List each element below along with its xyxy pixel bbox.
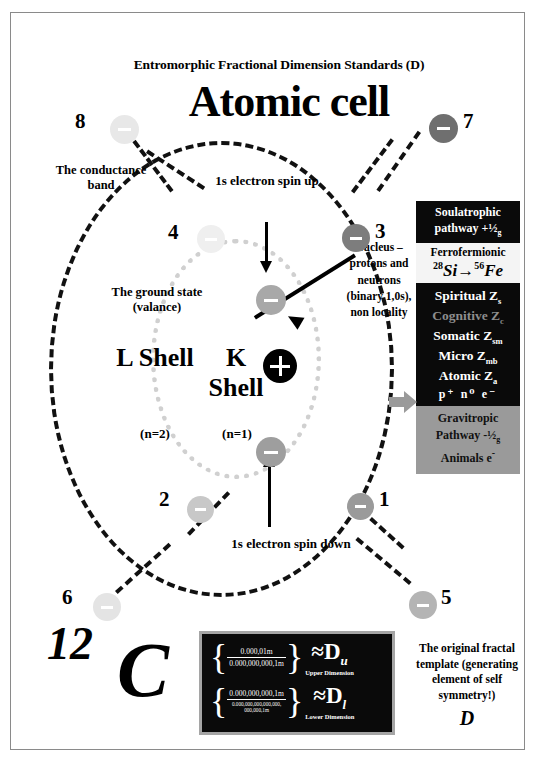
nuclear-equation: 28Si→56Fe: [419, 260, 517, 281]
spin-up-arrow-head: [260, 261, 272, 273]
electron-charge-sign: [437, 127, 450, 130]
gravitropic-line2: Pathway -½g: [419, 427, 517, 446]
z-level-micro: Micro Zmb: [418, 347, 518, 367]
electron-charge-sign: [355, 505, 367, 508]
electron-1[interactable]: [347, 493, 374, 520]
label-fractal-D: D: [403, 707, 531, 731]
label-spin-up: 1s electron spin up: [197, 170, 337, 193]
lower-dimension-row: { 0.000,000,000,1m 0.000,000,000,000,000…: [210, 683, 354, 720]
electron-2[interactable]: [187, 496, 214, 523]
spin-up-arrow-shaft: [265, 222, 268, 264]
label-conductance-band: The conductance band: [53, 163, 149, 193]
z-level-somatic: Somatic Zsm: [418, 327, 518, 347]
ferrofermionic-box: Ferrofermionic 28Si→56Fe: [416, 243, 520, 283]
nucleus-particle[interactable]: [263, 349, 297, 383]
ferrofermionic-title: Ferrofermionic: [419, 245, 517, 259]
fe-mass-number: 56: [474, 260, 484, 271]
bond-line-3: [351, 138, 394, 193]
gravitropic-pathway-box: Gravitropic Pathway -½g Animals e-: [416, 406, 520, 473]
soulatrophic-line2: pathway +½g: [419, 221, 517, 239]
gravitropic-sub: g: [496, 435, 500, 444]
lower-numerator: 0.000,000,000,1m: [227, 689, 286, 699]
electron-3[interactable]: [342, 224, 370, 252]
carbon-symbol: C: [117, 635, 169, 705]
label-l-shell: L Shell: [107, 343, 203, 373]
right-panel: Soulatrophic pathway +½g Ferrofermionic …: [416, 201, 520, 474]
lower-denominator: 0.000,000,000,000,000, 000,000,1m: [227, 699, 286, 713]
label-l-shell-n: (n=2): [107, 426, 203, 441]
lower-dimension-caption: Lower Dimension: [305, 713, 354, 720]
diagram-frame: Entromorphic Fractional Dimension Standa…: [10, 12, 525, 750]
spin-down-electron[interactable]: [256, 437, 286, 467]
fractal-template-box: { 0.000,01m 0.000,000,000,1m } ≈Du Upper…: [199, 631, 395, 735]
gravitropic-line1: Gravitropic: [419, 410, 517, 426]
label-ground-state: The ground state (valance): [97, 285, 217, 315]
electron-number-1: 1: [379, 487, 390, 512]
carbon-mass-number: 12: [47, 617, 93, 671]
electron-number-5: 5: [441, 585, 452, 610]
soulatrophic-pathway-box: Soulatrophic pathway +½g: [416, 201, 520, 243]
soulatrophic-line1: Soulatrophic: [419, 205, 517, 221]
electron-charge-sign: [101, 606, 113, 609]
z-level-cognitive: Cognitive Zc: [418, 307, 518, 327]
electron-number-7: 7: [463, 109, 474, 134]
page-title: Entromorphic Fractional Dimension Standa…: [49, 57, 509, 73]
diagram-heading: Atomic cell: [109, 76, 469, 128]
label-k-shell: K Shell: [201, 343, 271, 403]
left-brace-icon: {: [210, 686, 227, 717]
diagram-page: Entromorphic Fractional Dimension Standa…: [0, 0, 537, 764]
upper-fraction: 0.000,01m 0.000,000,000,1m: [227, 647, 286, 668]
label-fractal-template: The original fractal template (generatin…: [403, 641, 531, 703]
electron-number-3: 3: [375, 219, 386, 244]
upper-approx: ≈Du: [305, 639, 354, 669]
z-level-particles: p⁺ n⁰ e⁻: [418, 387, 518, 403]
lower-approx: ≈Dl: [305, 683, 354, 713]
electron-charge-sign: [118, 128, 131, 131]
bond-line-7: [376, 131, 421, 192]
z-level-atomic: Atomic Za: [418, 367, 518, 387]
bond-line-5: [355, 537, 411, 585]
gravitropic-line3: Animals e-: [419, 446, 517, 468]
spin-down-arrow-shaft: [268, 465, 271, 527]
label-spin-down: 1s electron spin down: [221, 533, 361, 556]
plus-sign-vertical: [279, 356, 282, 375]
electron-charge-sign: [195, 508, 207, 511]
z-level-spiritual: Spiritual Zs: [418, 287, 518, 307]
electron-4[interactable]: [197, 225, 225, 253]
electron-charge-sign: [205, 238, 217, 241]
z-levels-box: Spiritual Zs Cognitive Zc Somatic Zsm Mi…: [416, 283, 520, 406]
electron-charge-sign: [264, 451, 277, 454]
upper-dimension-caption: Upper Dimension: [305, 669, 354, 676]
soulatrophic-sub: g: [497, 228, 501, 237]
upper-denominator: 0.000,000,000,1m: [227, 657, 286, 668]
electron-number-6: 6: [62, 585, 73, 610]
fe-symbol: Fe: [484, 261, 503, 280]
si-symbol: Si: [443, 261, 457, 280]
si-mass-number: 28: [433, 260, 443, 271]
upper-numerator: 0.000,01m: [227, 647, 286, 657]
left-brace-icon: {: [210, 642, 227, 673]
lower-fraction: 0.000,000,000,1m 0.000,000,000,000,000, …: [227, 689, 286, 713]
spin-up-electron[interactable]: [256, 285, 286, 315]
electron-charge-sign: [417, 604, 429, 607]
electron-charge-sign: [264, 299, 277, 302]
carbon-isotope-label: 12 C: [39, 613, 209, 733]
right-brace-icon: }: [286, 642, 303, 673]
electron-charge-sign: [350, 237, 362, 240]
electron-5[interactable]: [409, 591, 437, 619]
right-brace-icon: }: [286, 686, 303, 717]
upper-dimension-row: { 0.000,01m 0.000,000,000,1m } ≈Du Upper…: [210, 639, 354, 676]
electron-number-2: 2: [159, 487, 170, 512]
electron-number-4: 4: [168, 220, 179, 245]
electron-7[interactable]: [429, 114, 458, 143]
electron-8[interactable]: [110, 115, 139, 144]
grey-pointer-arrow-icon: [389, 391, 417, 413]
transmute-arrow-icon: →: [457, 261, 474, 280]
electron-number-8: 8: [75, 109, 86, 134]
